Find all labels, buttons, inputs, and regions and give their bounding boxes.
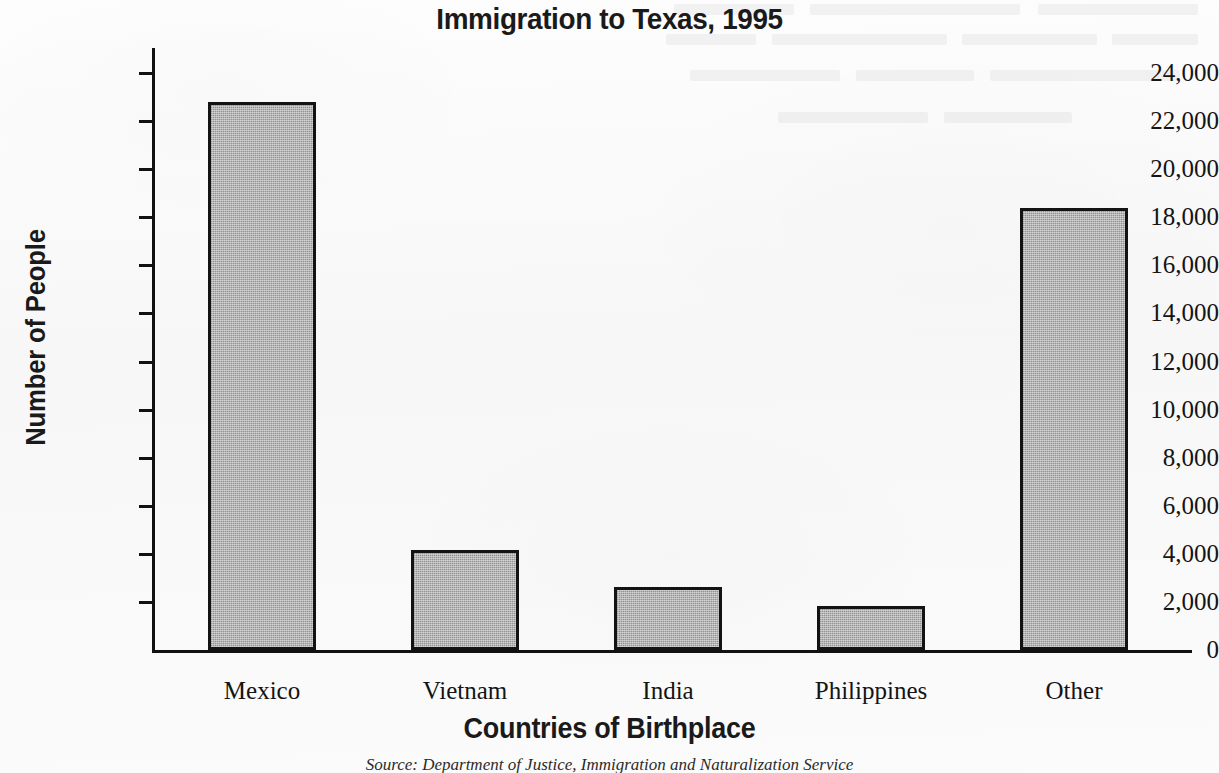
- y-axis-tick-mark: [139, 168, 153, 171]
- bar-other: [1020, 208, 1128, 650]
- y-axis-tick-mark: [139, 457, 153, 460]
- bar-vietnam: [411, 550, 519, 650]
- y-axis-tick-mark: [139, 72, 153, 75]
- y-axis-tick-mark: [139, 409, 153, 412]
- y-axis-tick-mark: [139, 601, 153, 604]
- x-axis-label-other: Other: [973, 678, 1176, 703]
- x-axis-line: [152, 650, 1192, 653]
- y-axis-tick-label: 22,000: [1101, 108, 1219, 133]
- x-axis-label-india: India: [567, 678, 770, 703]
- y-axis-tick-label: 20,000: [1101, 156, 1219, 181]
- bar-india: [614, 587, 722, 650]
- y-axis-tick-mark: [139, 264, 153, 267]
- y-axis-tick-mark: [139, 505, 153, 508]
- chart-page: Immigration to Texas, 1995 24,00022,0002…: [0, 0, 1219, 773]
- y-axis-tick-label: 24,000: [1101, 60, 1219, 85]
- x-axis-label-mexico: Mexico: [161, 678, 364, 703]
- source-note: Source: Department of Justice, Immigrati…: [0, 755, 1219, 773]
- y-axis-tick-mark: [139, 216, 153, 219]
- y-axis-line: [152, 48, 155, 651]
- y-axis-tick-mark: [139, 120, 153, 123]
- x-axis-label-vietnam: Vietnam: [364, 678, 567, 703]
- y-axis-tick-mark: [139, 312, 153, 315]
- y-axis-tick-mark: [139, 361, 153, 364]
- y-axis-tick-mark: [139, 553, 153, 556]
- bar-philippines: [817, 606, 925, 650]
- plot-area: 24,00022,00020,00018,00016,00014,00012,0…: [0, 0, 1219, 773]
- x-axis-label-philippines: Philippines: [770, 678, 973, 703]
- x-axis-title: Countries of Birthplace: [43, 712, 1177, 745]
- y-axis-title: Number of People: [21, 205, 52, 471]
- bar-mexico: [208, 102, 316, 650]
